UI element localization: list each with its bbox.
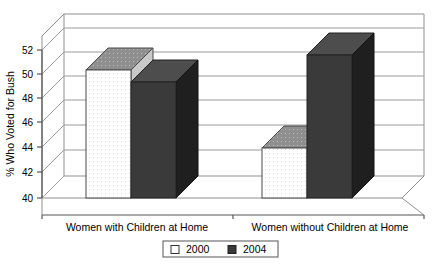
bar-front-face xyxy=(86,70,131,198)
bar-side-face xyxy=(176,60,198,198)
bar-front-face xyxy=(131,82,176,198)
y-tick-46: 46 xyxy=(22,117,34,128)
y-tick-42: 42 xyxy=(22,167,34,178)
bar-front-face xyxy=(307,55,352,198)
legend-label-2004: 2004 xyxy=(243,243,267,255)
x-category-label-1: Women with Children at Home xyxy=(66,221,208,233)
y-tick-52: 52 xyxy=(22,45,34,56)
bar-chart: 52 50 48 46 44 42 40 % Who Voted for Bus… xyxy=(0,0,439,264)
y-tick-48: 48 xyxy=(22,93,34,104)
chart-canvas: 52 50 48 46 44 42 40 % Who Voted for Bus… xyxy=(0,0,439,264)
bar-2004-group-2 xyxy=(307,33,374,198)
y-tick-40: 40 xyxy=(22,193,34,204)
bar-2004-group-1 xyxy=(131,60,198,198)
x-category-label-2: Women without Children at Home xyxy=(252,221,409,233)
legend-swatch-2004 xyxy=(228,246,236,254)
chart-legend: 2000 2004 xyxy=(163,241,278,257)
bar-front-face xyxy=(262,148,307,198)
y-tick-50: 50 xyxy=(22,69,34,80)
legend-label-2000: 2000 xyxy=(186,243,210,255)
y-axis-title: % Who Voted for Bush xyxy=(4,71,16,177)
legend-swatch-2000 xyxy=(171,246,179,254)
bar-side-face xyxy=(352,33,374,198)
y-tick-44: 44 xyxy=(22,142,34,153)
